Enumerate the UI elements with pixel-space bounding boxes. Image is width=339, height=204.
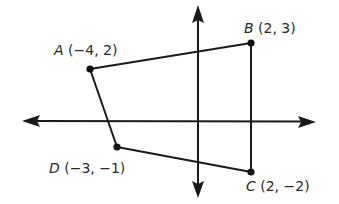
vertex-a [86,65,93,72]
x-axis [22,115,316,128]
y-axis [192,5,204,198]
label-c: C (2, −2) [246,178,310,194]
label-b: B (2, 3) [244,20,296,36]
quadrilateral-abcd [90,43,251,172]
label-a: A (−4, 2) [53,42,117,58]
vertex-b [247,39,254,46]
coordinate-diagram: A (−4, 2) B (2, 3) C (2, −2) D (−3, −1) [0,0,339,204]
label-d: D (−3, −1) [49,160,125,176]
vertex-d [113,143,120,150]
vertex-c [247,168,254,175]
